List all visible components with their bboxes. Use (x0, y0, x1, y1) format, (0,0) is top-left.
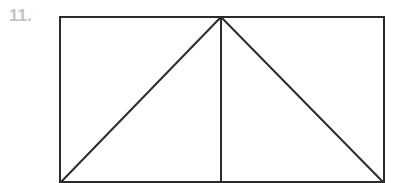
right-diagonal (221, 17, 383, 182)
geometry-figure (0, 0, 393, 183)
left-diagonal (61, 17, 221, 182)
